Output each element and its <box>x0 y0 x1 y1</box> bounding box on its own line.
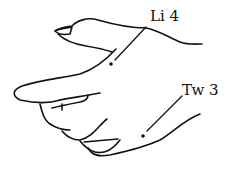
index-crease <box>60 93 100 100</box>
thumb-underside <box>58 34 112 52</box>
thumbnail <box>55 27 72 34</box>
index-finger-top <box>14 49 116 103</box>
li4-label: Li 4 <box>150 9 179 24</box>
tw3-point-dot <box>141 134 145 138</box>
tw3-leader <box>147 96 182 131</box>
acupuncture-hand-diagram: Li 4 Tw 3 <box>0 0 240 175</box>
tw3-label: Tw 3 <box>182 83 219 98</box>
thumb-outline <box>55 19 202 44</box>
finger-4b <box>84 139 118 142</box>
li4-leader <box>115 27 146 60</box>
li4-point-dot <box>109 62 113 66</box>
